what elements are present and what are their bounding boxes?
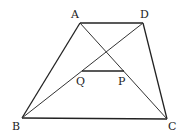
segment-BC (22, 118, 167, 119)
label-D: D (140, 8, 149, 21)
segment-AB (22, 23, 80, 118)
segment-DC (143, 23, 167, 119)
label-P: P (118, 75, 126, 88)
trapezoid-diagram: A D B C Q P (0, 0, 188, 138)
label-A: A (70, 8, 80, 21)
label-C: C (168, 120, 176, 133)
label-B: B (12, 120, 20, 133)
label-Q: Q (76, 75, 85, 88)
